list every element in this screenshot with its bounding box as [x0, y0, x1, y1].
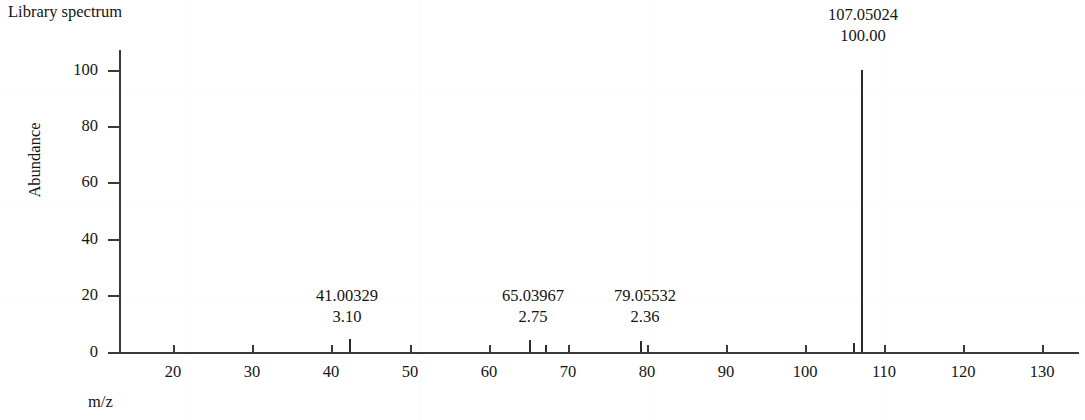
chart-title: Library spectrum [8, 2, 122, 22]
y-tick-label: 100 [52, 62, 98, 78]
x-tick-label: 130 [1012, 362, 1072, 382]
peak-106 [853, 343, 855, 352]
peak-annotation-107: 107.05024 100.00 [763, 4, 963, 46]
mass-spectrum-chart: Library spectrum Abundance 0 20 40 60 80… [0, 0, 1085, 420]
x-tick-label: 40 [301, 362, 361, 382]
x-tick-label: 60 [459, 362, 519, 382]
y-tick-label: 60 [52, 174, 98, 190]
peak-annotation-mz: 41.00329 [247, 285, 447, 306]
peak-65 [529, 340, 531, 352]
peak-41 [349, 339, 351, 352]
x-tick-label: 90 [696, 362, 756, 382]
peak-annotation-mz: 107.05024 [763, 4, 963, 25]
y-tick-label: 0 [52, 344, 98, 360]
peak-annotation-intensity: 100.00 [763, 25, 963, 46]
x-tick-label: 120 [933, 362, 993, 382]
y-tick-label: 20 [52, 287, 98, 303]
peak-annotation-41: 41.00329 3.10 [247, 285, 447, 327]
peak-annotation-intensity: 3.10 [247, 306, 447, 327]
y-axis-line [119, 50, 121, 353]
x-tick-label: 70 [538, 362, 598, 382]
x-tick-label: 50 [380, 362, 440, 382]
y-tick-label: 80 [52, 118, 98, 134]
peak-annotation-79: 79.05532 2.36 [545, 285, 745, 327]
x-tick-label: 30 [222, 362, 282, 382]
x-tick-label: 20 [143, 362, 203, 382]
y-tick-label: 40 [52, 231, 98, 247]
scan-artifact-gridlines [0, 0, 1085, 420]
peak-79 [640, 341, 642, 352]
x-axis-label: m/z [88, 392, 113, 412]
x-tick-label: 110 [854, 362, 914, 382]
peak-annotation-intensity: 2.36 [545, 306, 745, 327]
y-axis-label: Abundance [25, 100, 45, 220]
peak-annotation-mz: 79.05532 [545, 285, 745, 306]
x-axis-line [119, 352, 1079, 354]
x-tick-label: 100 [775, 362, 835, 382]
peak-107-base [861, 70, 863, 352]
x-tick-label: 80 [617, 362, 677, 382]
peak-67 [545, 345, 547, 352]
